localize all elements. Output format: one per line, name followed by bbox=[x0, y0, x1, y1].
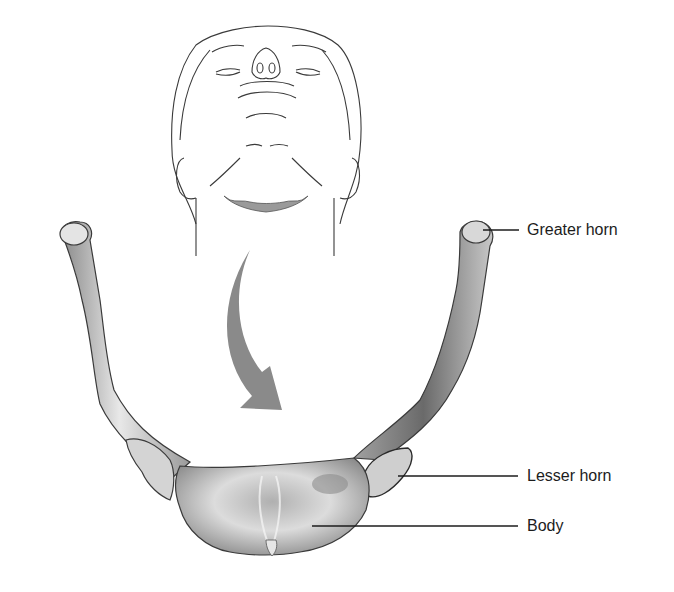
curved-arrow-icon bbox=[227, 250, 282, 410]
label-lesser-horn: Lesser horn bbox=[527, 468, 612, 484]
left-greater-horn bbox=[60, 222, 190, 478]
hyoid-diagram: Greater horn Lesser horn Body bbox=[0, 0, 674, 592]
label-body: Body bbox=[527, 518, 563, 534]
head-outline-illustration bbox=[172, 26, 361, 256]
hyoid-location-highlight bbox=[224, 196, 308, 212]
diagram-artwork bbox=[0, 0, 674, 592]
right-greater-horn bbox=[354, 221, 493, 460]
label-greater-horn: Greater horn bbox=[527, 222, 618, 238]
